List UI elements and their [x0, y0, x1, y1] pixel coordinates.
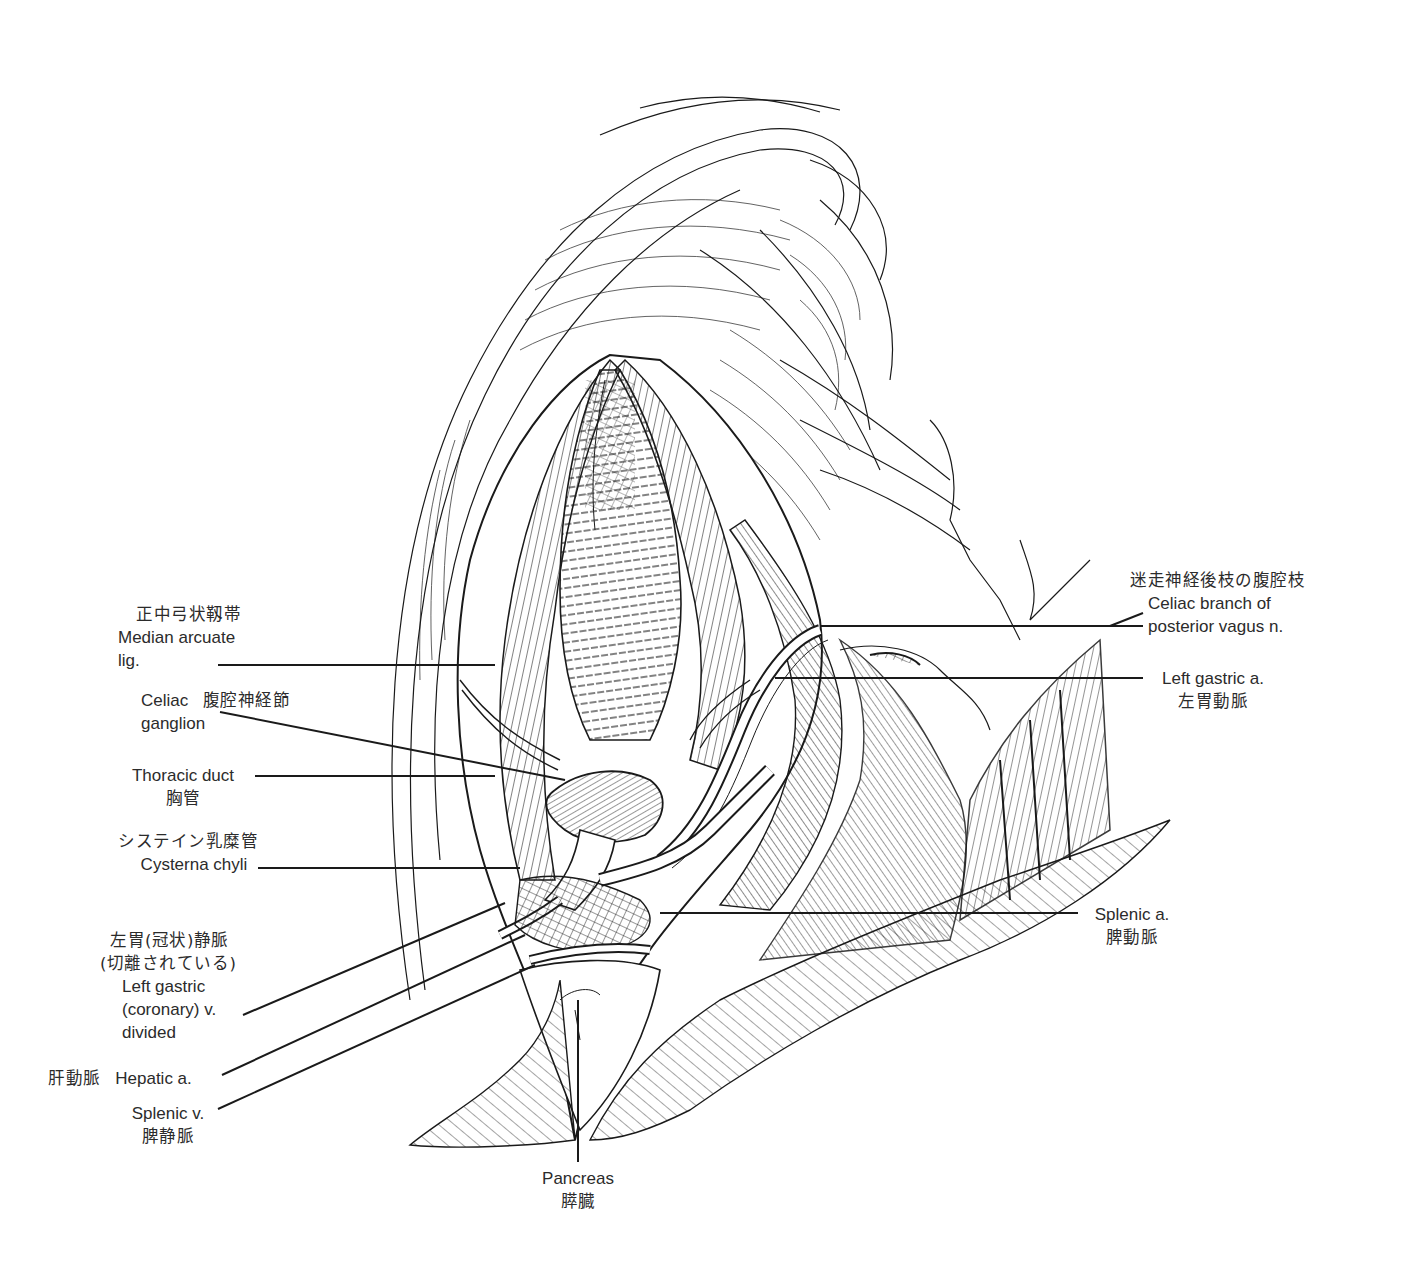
label-en: Hepatic a. [115, 1069, 192, 1088]
label-celiac-ganglion: Celiac 腹腔神経節 ganglion [141, 689, 290, 735]
label-en: Left gastric [100, 975, 236, 998]
label-splenic-vein: Splenic v. 脾静脈 [118, 1102, 218, 1148]
label-median-arcuate-lig: 正中弓状靱帯 Median arcuate lig. [118, 603, 268, 672]
label-cysterna-chyli: システイン乳糜管 Cysterna chyli [103, 830, 273, 876]
label-jp: 迷走神経後枝の腹腔枝 [1130, 569, 1305, 592]
label-en: lig. [118, 649, 268, 672]
label-en: Median arcuate [118, 626, 268, 649]
label-en: Thoracic duct [118, 764, 248, 787]
label-left-gastric-artery: Left gastric a. 左胃動脈 [1148, 667, 1278, 713]
label-en: divided [100, 1021, 236, 1044]
label-jp: 腹腔神経節 [203, 691, 291, 710]
label-left-gastric-vein: 左胃(冠状)静脈 (切離されている) Left gastric (coronar… [100, 929, 236, 1044]
label-jp: 左胃動脈 [1148, 690, 1278, 713]
label-jp: 正中弓状靱帯 [118, 603, 268, 626]
label-jp: 胸管 [118, 787, 248, 810]
label-jp: 膵臓 [528, 1190, 628, 1213]
label-en: Pancreas [528, 1167, 628, 1190]
label-en: Cysterna chyli [103, 853, 273, 876]
label-thoracic-duct: Thoracic duct 胸管 [118, 764, 248, 810]
label-en: Celiac branch of [1130, 592, 1305, 615]
label-celiac-branch-vagus: 迷走神経後枝の腹腔枝 Celiac branch of posterior va… [1130, 569, 1305, 638]
leader-splenic-v [218, 965, 535, 1109]
label-en: posterior vagus n. [1130, 615, 1305, 638]
label-hepatic-artery: 肝動脈 Hepatic a. [48, 1067, 192, 1090]
label-en: (coronary) v. [100, 998, 236, 1021]
label-jp: 脾動脈 [1082, 926, 1182, 949]
leader-left-gastric-v [243, 903, 505, 1015]
label-en: Splenic a. [1082, 903, 1182, 926]
label-jp: 肝動脈 [48, 1069, 101, 1088]
label-en: Left gastric a. [1148, 667, 1278, 690]
label-jp: システイン乳糜管 [103, 830, 273, 853]
label-pancreas: Pancreas 膵臓 [528, 1167, 628, 1213]
label-jp: (切離されている) [100, 952, 236, 975]
label-en: Celiac [141, 691, 188, 710]
label-en: ganglion [141, 712, 290, 735]
label-splenic-artery: Splenic a. 脾動脈 [1082, 903, 1182, 949]
label-jp: 左胃(冠状)静脈 [100, 929, 236, 952]
label-en: Splenic v. [118, 1102, 218, 1125]
label-jp: 脾静脈 [118, 1125, 218, 1148]
